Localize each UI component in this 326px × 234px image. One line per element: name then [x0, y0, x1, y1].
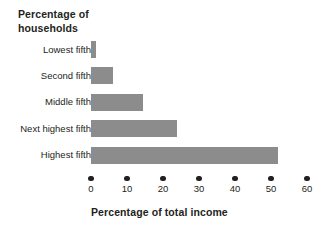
tick-dot-icon: [268, 176, 273, 181]
tick-dot-icon: [160, 176, 165, 181]
bar: [91, 67, 113, 84]
category-label: Middle fifth: [45, 98, 91, 108]
category-label: Next highest fifth: [20, 124, 91, 134]
bar-row: Lowest fifth: [0, 41, 326, 58]
x-axis-tick-label: 10: [113, 184, 141, 194]
bar: [91, 120, 177, 137]
tick-dot-icon: [88, 176, 93, 181]
category-label: Lowest fifth: [43, 45, 91, 55]
bar-row: Second fifth: [0, 67, 326, 84]
bar-row: Highest fifth: [0, 147, 326, 164]
category-label: Highest fifth: [41, 150, 91, 160]
x-axis-tick-label: 50: [257, 184, 285, 194]
x-axis-tick-label: 0: [77, 184, 105, 194]
x-axis-tick-label: 60: [293, 184, 321, 194]
tick-dot-icon: [124, 176, 129, 181]
bar-row: Next highest fifth: [0, 120, 326, 137]
x-axis: 0102030405060: [0, 176, 326, 206]
bar: [91, 147, 278, 164]
bar: [91, 41, 96, 58]
tick-dot-icon: [232, 176, 237, 181]
x-axis-title: Percentage of total income: [91, 207, 228, 218]
bar: [91, 94, 143, 111]
bar-row: Middle fifth: [0, 94, 326, 111]
x-axis-tick-label: 20: [149, 184, 177, 194]
x-axis-tick-label: 30: [185, 184, 213, 194]
bar-chart: Percentage of households Lowest fifthSec…: [0, 0, 326, 234]
tick-dot-icon: [196, 176, 201, 181]
chart-title: Percentage of households: [18, 8, 188, 36]
plot-area: Lowest fifthSecond fifthMiddle fifthNext…: [0, 41, 326, 175]
category-label: Second fifth: [41, 71, 91, 81]
x-axis-tick-label: 40: [221, 184, 249, 194]
tick-dot-icon: [304, 176, 309, 181]
